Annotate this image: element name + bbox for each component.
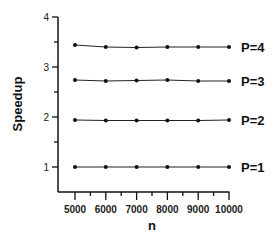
series-p-1: P=1 [73, 160, 265, 175]
series-line [75, 45, 229, 48]
data-point [165, 78, 169, 82]
x-axis-title: n [148, 218, 156, 233]
data-point [196, 165, 200, 169]
x-tick-label: 5000 [64, 204, 87, 215]
series-p-2: P=2 [73, 113, 265, 128]
data-point [227, 118, 231, 122]
axes: 12345000600070008000900010000 [43, 12, 243, 216]
data-point [73, 43, 77, 47]
data-point [135, 165, 139, 169]
data-point [227, 165, 231, 169]
data-point [135, 79, 139, 83]
series-p-4: P=4 [73, 40, 265, 55]
x-tick-label: 10000 [215, 204, 243, 215]
data-point [104, 79, 108, 83]
speedup-chart: 12345000600070008000900010000 P=1P=2P=3P… [0, 0, 274, 240]
y-tick-label: 2 [43, 112, 49, 123]
series-line [75, 80, 229, 81]
x-tick-label: 6000 [95, 204, 118, 215]
y-axis-title: Speedup [10, 76, 25, 131]
data-point [196, 79, 200, 83]
data-point [73, 78, 77, 82]
data-point [227, 79, 231, 83]
data-point [196, 45, 200, 49]
y-tick-label: 3 [43, 62, 49, 73]
data-point [135, 46, 139, 50]
data-point [227, 45, 231, 49]
data-point [165, 119, 169, 123]
series-line [75, 120, 229, 121]
series-label: P=2 [241, 113, 265, 128]
data-point [104, 165, 108, 169]
data-point [104, 45, 108, 49]
plot-area: P=1P=2P=3P=4 [73, 40, 265, 175]
series-p-3: P=3 [73, 74, 265, 89]
data-point [104, 119, 108, 123]
data-point [73, 165, 77, 169]
data-point [73, 118, 77, 122]
data-point [196, 119, 200, 123]
data-point [165, 45, 169, 49]
series-label: P=1 [241, 160, 265, 175]
x-tick-label: 9000 [187, 204, 210, 215]
series-label: P=4 [241, 40, 265, 55]
data-point [165, 165, 169, 169]
series-label: P=3 [241, 74, 265, 89]
x-tick-label: 7000 [125, 204, 148, 215]
x-tick-label: 8000 [156, 204, 179, 215]
data-point [135, 119, 139, 123]
y-tick-label: 1 [43, 162, 49, 173]
y-tick-label: 4 [43, 12, 49, 23]
